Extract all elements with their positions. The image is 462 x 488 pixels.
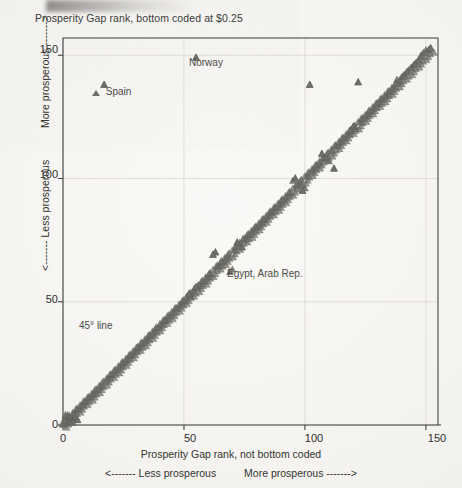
annotation-45-degree-line: 45° line: [79, 320, 112, 331]
y-dir-more-prosperous: More prosperous ------->: [39, 15, 51, 128]
annotation-norway: Norway: [189, 57, 223, 68]
y-tick-label: 0: [24, 418, 58, 430]
data-point-marker-outlier: [306, 81, 313, 87]
x-direction-annotation: <------- Less prosperous More prosperous…: [0, 467, 462, 479]
x-dir-less-prosperous: <------- Less prosperous: [105, 467, 216, 479]
plot-canvas: [0, 0, 462, 488]
x-axis-title: Prosperity Gap rank, not bottom coded: [0, 448, 462, 460]
data-point-marker-outlier: [318, 150, 325, 156]
annotation-egypt: Egypt, Arab Rep.: [227, 268, 303, 279]
x-dir-more-prosperous: More prosperous ------->: [244, 467, 357, 479]
annotation-spain: Spain: [92, 86, 131, 97]
x-tick-label: 0: [46, 432, 80, 444]
x-tick-label: 150: [420, 432, 454, 444]
data-points: [59, 44, 438, 430]
y-tick-label: 50: [24, 293, 58, 305]
x-tick-label: 50: [173, 432, 207, 444]
scatter-chart: Prosperity Gap rank, bottom coded at $0.…: [0, 0, 462, 488]
annotation-spain-label: Spain: [106, 86, 132, 97]
data-point-marker-outlier: [331, 165, 338, 171]
data-point-marker-outlier: [355, 79, 362, 85]
x-tick-label: 100: [297, 432, 331, 444]
triangle-marker-icon: [92, 90, 100, 96]
y-dir-less-prosperous: <------- Less prosperous: [39, 160, 51, 271]
y-direction-annotation: <------- Less prosperous More prosperous…: [39, 41, 51, 271]
